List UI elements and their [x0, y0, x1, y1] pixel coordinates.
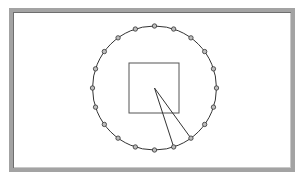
circle-node: [211, 105, 215, 109]
circle-node: [202, 49, 206, 53]
circle-node: [171, 27, 175, 31]
circle-node: [102, 49, 106, 53]
triangle-wedge: [155, 88, 191, 147]
center-square: [129, 63, 179, 113]
circle-node: [116, 36, 120, 40]
circle-node: [189, 136, 193, 140]
circle-node: [93, 105, 97, 109]
circle-node: [152, 148, 156, 152]
diagram-canvas: [0, 0, 301, 177]
circle-node: [171, 145, 175, 149]
circle-node: [90, 86, 94, 90]
circle-node: [189, 36, 193, 40]
circle-node: [152, 24, 156, 28]
circle-node: [116, 136, 120, 140]
circle-node: [93, 67, 97, 71]
circle-node: [211, 67, 215, 71]
circle-node: [133, 145, 137, 149]
circle-node: [133, 27, 137, 31]
circle-node: [102, 122, 106, 126]
circle-node: [214, 86, 218, 90]
circle-node: [202, 122, 206, 126]
